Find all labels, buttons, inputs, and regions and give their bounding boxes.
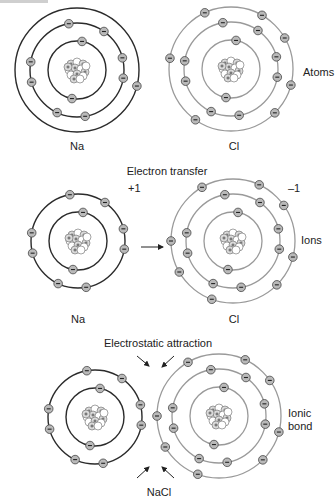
electron-icon: [27, 78, 36, 87]
electron-icon: [101, 198, 110, 207]
electron-icon: [26, 58, 35, 67]
electron-icon: [168, 404, 177, 413]
electron-icon: [254, 26, 263, 35]
label-ions-cl: Cl: [229, 313, 239, 326]
electron-icon: [78, 37, 87, 46]
atoms-na-atom: [15, 8, 141, 132]
electron-icon: [183, 249, 192, 258]
electron-icon: [68, 94, 77, 103]
electron-icon: [237, 283, 246, 292]
electron-icon: [136, 401, 145, 410]
electron-icon: [219, 18, 228, 27]
electron-icon: [224, 265, 233, 274]
electron-icon: [275, 245, 284, 254]
label-na-charge: +1: [128, 182, 141, 195]
nucleus-icon: [82, 405, 108, 430]
electron-icon: [287, 81, 296, 90]
nucleus-icon: [65, 229, 91, 254]
electron-icon: [83, 366, 92, 375]
electron-icon: [193, 470, 202, 479]
electron-icon: [241, 356, 250, 365]
ions-cl-atom: [167, 179, 297, 304]
label-atoms-side: Atoms: [303, 66, 334, 79]
electron-icon: [260, 400, 269, 409]
electron-icon: [96, 384, 105, 393]
electron-icon: [54, 279, 63, 288]
electron-icon: [69, 265, 78, 274]
ions-na-atom: [27, 190, 128, 291]
electron-icon: [200, 9, 209, 18]
electron-icon: [180, 57, 189, 66]
label-cl-charge: –1: [288, 182, 300, 195]
electron-icon: [65, 19, 74, 28]
electron-icon: [232, 36, 241, 45]
electron-icon: [258, 11, 267, 20]
electron-icon: [71, 455, 80, 464]
electron-icon: [223, 458, 232, 467]
electron-icon: [118, 54, 127, 63]
electron-icon: [175, 268, 184, 277]
atoms-cl-atom: [166, 7, 296, 131]
electron-icon: [279, 201, 288, 210]
electron-icon: [82, 283, 91, 292]
nucleus-icon: [64, 58, 90, 83]
label-electrostatic-attraction: Electrostatic attraction: [104, 337, 212, 350]
label-atoms-cl: Cl: [229, 140, 239, 153]
electron-icon: [272, 53, 281, 62]
electron-icon: [222, 93, 231, 102]
label-ions-side: Ions: [301, 234, 322, 247]
electron-icon: [261, 420, 270, 429]
electron-icon: [169, 424, 178, 433]
electron-icon: [207, 107, 216, 116]
electron-icon: [210, 440, 219, 449]
electron-icon: [27, 229, 36, 238]
electron-icon: [184, 358, 193, 367]
electron-icon: [271, 109, 280, 118]
label-ionic: Ionic: [288, 407, 311, 420]
electron-icon: [289, 253, 298, 262]
electron-icon: [120, 245, 129, 254]
electron-icon: [182, 229, 191, 238]
electron-icon: [81, 112, 90, 121]
electron-icon: [259, 456, 268, 465]
nucleus-icon: [206, 404, 232, 429]
nucleus-icon: [218, 57, 244, 82]
electron-icon: [234, 208, 243, 217]
electron-icon: [191, 115, 200, 124]
electron-icon: [207, 365, 216, 374]
electron-icon: [273, 73, 282, 82]
electron-icon: [119, 225, 128, 234]
electron-icon: [153, 412, 162, 421]
electron-icon: [274, 225, 283, 234]
electron-icon: [166, 54, 175, 63]
electron-icon: [265, 376, 274, 385]
electron-icon: [118, 374, 127, 383]
electron-icon: [79, 208, 88, 217]
electron-icon: [220, 383, 229, 392]
electron-icon: [198, 183, 207, 192]
label-electron-transfer: Electron transfer: [127, 165, 208, 178]
electron-icon: [195, 454, 204, 463]
ionic-bond-diagram: [0, 0, 335, 501]
electron-icon: [221, 190, 230, 199]
electron-icon: [167, 237, 176, 246]
electron-icon: [181, 77, 190, 86]
electron-icon: [207, 295, 216, 304]
electron-icon: [100, 27, 109, 36]
electron-icon: [256, 198, 265, 207]
label-atoms-na: Na: [70, 140, 84, 153]
electron-icon: [99, 459, 108, 468]
electron-icon: [28, 249, 37, 258]
electron-icon: [209, 279, 218, 288]
electron-icon: [45, 425, 54, 434]
ionic-bond-na-atom: [44, 366, 145, 467]
electron-icon: [44, 405, 53, 414]
electron-icon: [161, 443, 170, 452]
ionic-bond-cl-atom: [153, 354, 283, 479]
nucleus-icon: [220, 229, 246, 254]
electron-icon: [242, 373, 251, 382]
electron-icon: [119, 74, 128, 83]
label-bond: bond: [288, 420, 312, 433]
electron-icon: [133, 82, 142, 91]
electron-icon: [137, 421, 146, 430]
